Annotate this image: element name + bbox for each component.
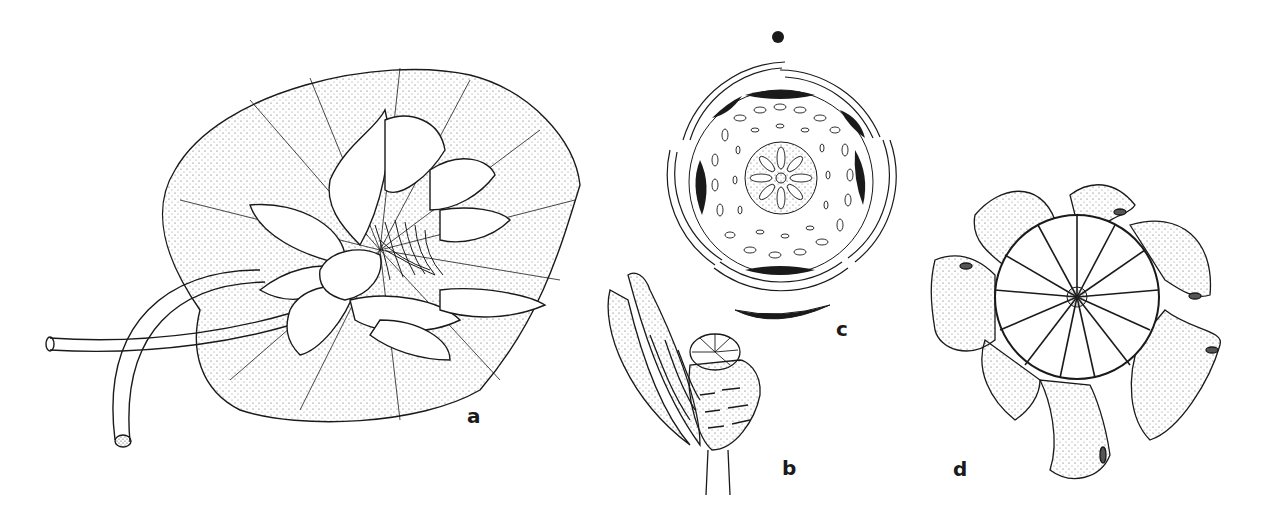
panel-label-d: d [953,457,967,481]
botanical-illustration: a b [0,0,1265,507]
panel-label-c: c [836,317,848,341]
panel-label-a: a [467,404,481,428]
panel-a-drawing [46,68,580,447]
panel-label-b: b [782,456,796,480]
panel-b-drawing [608,273,760,495]
panel-d-drawing [931,185,1220,479]
panel-c-drawing [667,31,896,319]
